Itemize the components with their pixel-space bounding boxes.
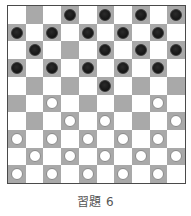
light-square-r6-c2 <box>43 112 61 130</box>
white-piece[interactable] <box>99 115 111 127</box>
dark-square-r0-c3[interactable] <box>61 6 79 24</box>
dark-square-r2-c3[interactable] <box>61 41 79 59</box>
white-piece[interactable] <box>170 115 182 127</box>
black-piece[interactable] <box>99 80 111 92</box>
dark-square-r4-c5[interactable] <box>97 77 115 95</box>
black-piece[interactable] <box>11 27 23 39</box>
dark-square-r8-c1[interactable] <box>26 148 44 166</box>
black-piece[interactable] <box>117 62 129 74</box>
dark-square-r2-c9[interactable] <box>167 41 185 59</box>
dark-square-r9-c6[interactable] <box>114 165 132 183</box>
dark-square-r3-c6[interactable] <box>114 59 132 77</box>
dark-square-r0-c9[interactable] <box>167 6 185 24</box>
white-piece[interactable] <box>152 97 164 109</box>
white-piece[interactable] <box>64 150 76 162</box>
black-piece[interactable] <box>135 44 147 56</box>
black-piece[interactable] <box>64 9 76 21</box>
black-piece[interactable] <box>82 27 94 39</box>
dark-square-r9-c4[interactable] <box>79 165 97 183</box>
dark-square-r7-c4[interactable] <box>79 130 97 148</box>
black-piece[interactable] <box>82 62 94 74</box>
black-piece[interactable] <box>46 27 58 39</box>
white-piece[interactable] <box>29 150 41 162</box>
light-square-r1-c1 <box>26 24 44 42</box>
dark-square-r8-c9[interactable] <box>167 148 185 166</box>
dark-square-r1-c8[interactable] <box>150 24 168 42</box>
black-piece[interactable] <box>152 62 164 74</box>
dark-square-r0-c7[interactable] <box>132 6 150 24</box>
white-piece[interactable] <box>170 150 182 162</box>
white-piece[interactable] <box>82 133 94 145</box>
dark-square-r4-c9[interactable] <box>167 77 185 95</box>
dark-square-r1-c4[interactable] <box>79 24 97 42</box>
light-square-r8-c6 <box>114 148 132 166</box>
dark-square-r2-c1[interactable] <box>26 41 44 59</box>
dark-square-r7-c2[interactable] <box>43 130 61 148</box>
puzzle-caption: 習題 6 <box>0 192 191 209</box>
white-piece[interactable] <box>11 133 23 145</box>
white-piece[interactable] <box>11 168 23 180</box>
dark-square-r1-c2[interactable] <box>43 24 61 42</box>
dark-square-r3-c0[interactable] <box>8 59 26 77</box>
light-square-r7-c1 <box>26 130 44 148</box>
dark-square-r7-c0[interactable] <box>8 130 26 148</box>
white-piece[interactable] <box>46 97 58 109</box>
dark-square-r6-c1[interactable] <box>26 112 44 130</box>
dark-square-r6-c9[interactable] <box>167 112 185 130</box>
white-piece[interactable] <box>82 168 94 180</box>
black-piece[interactable] <box>152 27 164 39</box>
dark-square-r1-c6[interactable] <box>114 24 132 42</box>
dark-square-r4-c1[interactable] <box>26 77 44 95</box>
black-piece[interactable] <box>29 44 41 56</box>
dark-square-r6-c3[interactable] <box>61 112 79 130</box>
dark-square-r8-c7[interactable] <box>132 148 150 166</box>
light-square-r0-c8 <box>150 6 168 24</box>
dark-square-r5-c4[interactable] <box>79 95 97 113</box>
dark-square-r4-c7[interactable] <box>132 77 150 95</box>
black-piece[interactable] <box>99 9 111 21</box>
dark-square-r9-c2[interactable] <box>43 165 61 183</box>
dark-square-r4-c3[interactable] <box>61 77 79 95</box>
light-square-r9-c7 <box>132 165 150 183</box>
dark-square-r0-c1[interactable] <box>26 6 44 24</box>
black-piece[interactable] <box>117 27 129 39</box>
dark-square-r6-c7[interactable] <box>132 112 150 130</box>
dark-square-r3-c4[interactable] <box>79 59 97 77</box>
light-square-r4-c6 <box>114 77 132 95</box>
white-piece[interactable] <box>135 150 147 162</box>
dark-square-r1-c0[interactable] <box>8 24 26 42</box>
dark-square-r6-c5[interactable] <box>97 112 115 130</box>
dark-square-r7-c8[interactable] <box>150 130 168 148</box>
dark-square-r9-c0[interactable] <box>8 165 26 183</box>
dark-square-r8-c5[interactable] <box>97 148 115 166</box>
dark-square-r9-c8[interactable] <box>150 165 168 183</box>
white-piece[interactable] <box>152 168 164 180</box>
dark-square-r0-c5[interactable] <box>97 6 115 24</box>
dark-square-r7-c6[interactable] <box>114 130 132 148</box>
dark-square-r3-c2[interactable] <box>43 59 61 77</box>
white-piece[interactable] <box>152 133 164 145</box>
white-piece[interactable] <box>46 133 58 145</box>
white-piece[interactable] <box>117 168 129 180</box>
white-piece[interactable] <box>117 133 129 145</box>
light-square-r5-c7 <box>132 95 150 113</box>
white-piece[interactable] <box>46 168 58 180</box>
dark-square-r5-c2[interactable] <box>43 95 61 113</box>
dark-square-r5-c6[interactable] <box>114 95 132 113</box>
light-square-r6-c4 <box>79 112 97 130</box>
black-piece[interactable] <box>170 9 182 21</box>
dark-square-r5-c8[interactable] <box>150 95 168 113</box>
black-piece[interactable] <box>99 44 111 56</box>
black-piece[interactable] <box>170 44 182 56</box>
dark-square-r8-c3[interactable] <box>61 148 79 166</box>
dark-square-r2-c7[interactable] <box>132 41 150 59</box>
black-piece[interactable] <box>11 62 23 74</box>
dark-square-r3-c8[interactable] <box>150 59 168 77</box>
light-square-r1-c5 <box>97 24 115 42</box>
black-piece[interactable] <box>46 62 58 74</box>
black-piece[interactable] <box>135 9 147 21</box>
dark-square-r5-c0[interactable] <box>8 95 26 113</box>
dark-square-r2-c5[interactable] <box>97 41 115 59</box>
white-piece[interactable] <box>99 150 111 162</box>
white-piece[interactable] <box>64 115 76 127</box>
